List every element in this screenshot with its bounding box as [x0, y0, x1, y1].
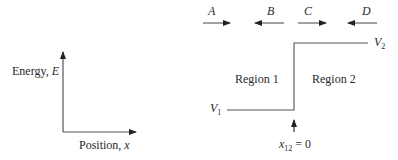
wave-label-d: D — [362, 4, 371, 19]
region-2-label: Region 2 — [312, 72, 356, 87]
v2-label: V2 — [374, 35, 385, 51]
position-axis-label: Position, x — [79, 138, 130, 153]
wave-label-b: B — [267, 4, 274, 19]
wave-label-a: A — [208, 4, 215, 19]
v1-label: V1 — [210, 101, 221, 117]
energy-axis-label: Energy, E — [12, 64, 59, 79]
wave-label-c: C — [304, 4, 312, 19]
region-1-label: Region 1 — [235, 72, 279, 87]
boundary-label: x12 = 0 — [279, 137, 311, 153]
